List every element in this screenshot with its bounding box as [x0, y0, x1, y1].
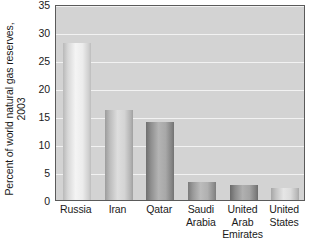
- y-tick-label: 30: [24, 27, 50, 39]
- gridline: [56, 6, 304, 7]
- x-tick-label: Iran: [109, 203, 127, 216]
- y-axis-ticks: 05101520253035: [24, 0, 50, 239]
- bar-fill: [230, 185, 258, 200]
- bar: [146, 122, 174, 200]
- bar-fill: [188, 182, 216, 200]
- x-tick-label: Qatar: [146, 203, 172, 216]
- gridline: [56, 146, 304, 147]
- x-tick-label-line: Emirates: [222, 228, 263, 239]
- gridline: [56, 34, 304, 35]
- x-tick-label: SaudiArabia: [186, 203, 216, 228]
- y-tick-label: 5: [24, 167, 50, 179]
- y-tick-label: 35: [24, 0, 50, 11]
- bar-chart: Percent of world natural gas reserves, 2…: [0, 0, 311, 239]
- x-tick-label: UnitedStates: [269, 203, 299, 228]
- y-axis-title-line-1: Percent of world natural gas reserves,: [3, 22, 16, 195]
- bar: [105, 110, 133, 200]
- x-tick-label-line: Qatar: [146, 203, 172, 216]
- gridline: [56, 118, 304, 119]
- x-tick-label-line: Arabia: [186, 216, 216, 229]
- y-tick-label: 10: [24, 139, 50, 151]
- bar: [63, 43, 91, 200]
- bar: [230, 185, 258, 200]
- x-tick-label: UnitedArabEmirates: [222, 203, 263, 239]
- gridline: [56, 62, 304, 63]
- x-tick-label-line: Russia: [60, 203, 92, 216]
- x-tick-label-line: United: [269, 203, 299, 216]
- bar: [188, 182, 216, 200]
- y-tick-label: 15: [24, 111, 50, 123]
- bar-fill: [63, 43, 91, 200]
- gridline: [56, 174, 304, 175]
- bar-fill: [146, 122, 174, 200]
- plot-area: [55, 5, 305, 201]
- x-tick-label: Russia: [60, 203, 92, 216]
- bar-fill: [271, 188, 299, 200]
- x-axis-labels: RussiaIranQatarSaudiArabiaUnitedArabEmir…: [55, 203, 305, 239]
- x-tick-label-line: Saudi: [186, 203, 216, 216]
- y-tick-label: 20: [24, 83, 50, 95]
- y-tick-label: 0: [24, 195, 50, 207]
- bar-fill: [105, 110, 133, 200]
- x-tick-label-line: Arab: [222, 216, 263, 229]
- bar: [271, 188, 299, 200]
- x-tick-label-line: United: [222, 203, 263, 216]
- gridline: [56, 90, 304, 91]
- x-tick-label-line: States: [269, 216, 299, 229]
- x-tick-label-line: Iran: [109, 203, 127, 216]
- y-tick-label: 25: [24, 55, 50, 67]
